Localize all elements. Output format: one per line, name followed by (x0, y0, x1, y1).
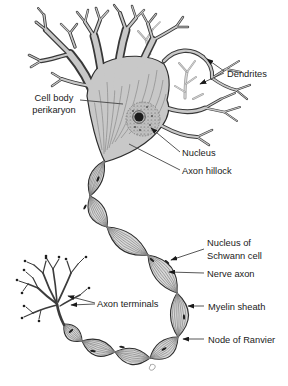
terminal-bouton (65, 258, 68, 261)
dendrite-branch-fill (224, 112, 237, 121)
terminal-twig (67, 261, 71, 273)
label-dendrites: Dendrites (227, 69, 267, 79)
nucleolus (134, 112, 143, 121)
chromatin-speck (146, 106, 148, 108)
terminal-twig (71, 264, 78, 273)
dendrite-branch-fill (153, 27, 176, 40)
label-nucleus: Nucleus (182, 148, 216, 158)
background-dendrite (187, 61, 195, 72)
dendrite-branch-fill (197, 130, 212, 137)
label-cell-body-line1: Cell body (35, 93, 74, 103)
leader-schwann-nucleus (171, 249, 204, 260)
terminal-twig (24, 313, 33, 317)
terminal-bouton (21, 317, 24, 320)
dendrite-branch-fill (236, 85, 250, 90)
terminal-bouton (45, 255, 48, 258)
chromatin-speck (139, 129, 141, 131)
terminal-twig (38, 288, 57, 304)
background-dendrite (179, 63, 187, 72)
schwann-cell-nucleus (119, 346, 125, 349)
terminal-twig (78, 258, 84, 264)
dendrite-branch-fill (52, 79, 62, 86)
chromatin-speck (132, 110, 134, 112)
figure-canvas: Dendrites Cell body perikaryon Nucleus A… (0, 0, 288, 386)
terminal-twig (47, 259, 53, 269)
dendrite-branch-fill (236, 90, 247, 99)
background-dendrite (186, 77, 196, 84)
label-schwann-line1: Nucleus of (207, 238, 251, 248)
terminal-twig (26, 307, 33, 313)
terminal-twig (57, 304, 64, 325)
dendrite-branch-fill (61, 24, 70, 33)
terminal-bouton (23, 269, 26, 272)
leader-axon-hillock (129, 144, 180, 170)
terminal-twig (58, 273, 71, 302)
schwann-cell-nucleus (83, 204, 88, 210)
dendrite-branch-fill (100, 11, 108, 20)
terminal-bouton (21, 292, 24, 295)
terminal-bouton (38, 320, 41, 323)
neuron-diagram: Dendrites Cell body perikaryon Nucleus A… (0, 0, 288, 386)
label-nerve-axon: Nerve axon (207, 269, 255, 279)
terminal-bouton (23, 305, 26, 308)
chromatin-speck (149, 124, 151, 126)
dendrite-branch-fill (126, 18, 136, 30)
terminal-bouton (85, 256, 88, 259)
label-node-of-ranvier: Node of Ranvier (208, 335, 275, 345)
label-schwann-line2: Schwann cell (207, 251, 262, 261)
background-dendrite (138, 31, 146, 40)
terminal-twig (26, 272, 33, 278)
dendrite-branch-fill (46, 30, 70, 54)
dendrite-branch-fill (197, 137, 209, 145)
dendrite-branch-fill (142, 13, 148, 24)
terminal-twig (27, 262, 34, 265)
dendrite-branch-fill (176, 17, 183, 27)
axon-myelin-chain (64, 161, 189, 365)
dendrite-branch-fill (114, 5, 120, 13)
terminal-bouton (24, 260, 27, 263)
dendrite-branch-fill (148, 14, 156, 24)
dendrite-branch-fill (52, 73, 62, 79)
terminal-bouton (88, 287, 91, 290)
dendrite-branch-fill (70, 24, 77, 33)
axon-terminal-tree (16, 255, 91, 325)
artist-mark (149, 364, 155, 370)
chromatin-speck (134, 126, 136, 128)
dendrite-branch-fill (224, 107, 240, 112)
dendrite-branch-fill (132, 6, 136, 18)
terminal-twig (53, 259, 59, 269)
dendrite-branch-fill (85, 22, 94, 36)
background-dendrite (153, 22, 160, 29)
terminal-twig (23, 284, 28, 291)
terminal-twig (33, 305, 57, 313)
label-axon-terminals: Axon terminals (97, 299, 159, 309)
terminal-twig (19, 281, 28, 284)
dendrite-branch-fill (221, 93, 235, 99)
terminal-bouton (16, 279, 19, 282)
dendrite-branch-fill (29, 55, 41, 61)
chromatin-speck (151, 115, 153, 117)
terminal-bouton (58, 256, 61, 259)
dendrite-branch-fill (205, 99, 221, 108)
dendrite-branch-fill (31, 61, 41, 67)
terminal-twig (43, 261, 46, 273)
leader-axon-terminals-2 (71, 304, 95, 305)
label-axon-hillock: Axon hillock (182, 166, 232, 176)
background-dendrite (193, 94, 203, 99)
dendrite-branch-fill (38, 8, 44, 15)
background-dendrite (175, 86, 185, 92)
dendrite-branch-fill (96, 8, 100, 20)
label-myelin-sheath: Myelin sheath (208, 302, 265, 312)
terminal-twig (39, 310, 41, 319)
label-cell-body-line2: perikaryon (32, 105, 75, 115)
terminal-twig (80, 289, 87, 295)
dendrite-branch-fill (226, 61, 239, 69)
dendrite-branch-fill (77, 12, 85, 22)
terminal-twig (34, 265, 43, 273)
